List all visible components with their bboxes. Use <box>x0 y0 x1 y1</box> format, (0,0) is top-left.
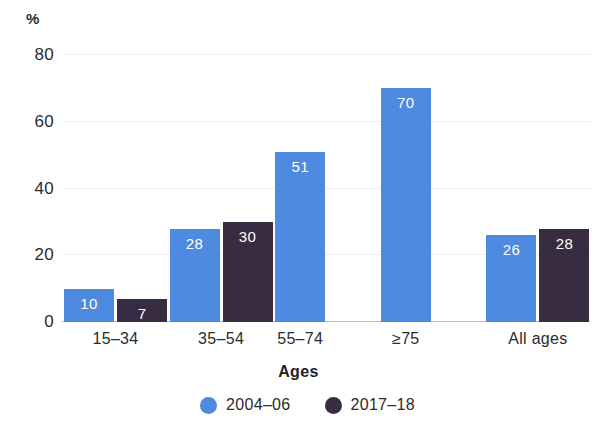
legend-label: 2017–18 <box>351 396 415 414</box>
y-axis-tick-label: 40 <box>10 179 54 199</box>
x-axis-tick-label: All ages <box>508 330 567 348</box>
x-axis-tick-label: ≥75 <box>392 330 419 348</box>
x-axis-tick-label: 15–34 <box>93 330 139 348</box>
bar[interactable]: 28 <box>539 229 589 322</box>
bar-value-label: 26 <box>486 241 536 258</box>
bar[interactable]: 30 <box>223 222 273 322</box>
legend-swatch-icon <box>200 397 217 414</box>
bar-group: 2830 <box>170 55 273 322</box>
bar[interactable]: 7 <box>117 299 167 322</box>
bar-group: 2628 <box>486 55 589 322</box>
legend-item[interactable]: 2004–06 <box>200 396 290 414</box>
y-axis-tick-label: 80 <box>10 45 54 65</box>
x-axis-tick-label: 35–54 <box>198 330 244 348</box>
legend-label: 2004–06 <box>226 396 290 414</box>
bar-value-label: 28 <box>539 235 589 252</box>
y-axis-tick-labels: 020406080 <box>0 55 54 322</box>
bar[interactable]: 51 <box>275 152 325 322</box>
bar[interactable]: 10 <box>64 289 114 322</box>
chart-legend: 2004–062017–18 <box>0 396 597 414</box>
bar-value-label: 7 <box>117 305 167 322</box>
legend-swatch-icon <box>325 397 342 414</box>
y-axis-tick-label: 60 <box>10 112 54 132</box>
bar[interactable]: 28 <box>170 229 220 322</box>
bar-group: 51 <box>275 55 378 322</box>
bar-group: 70 <box>381 55 484 322</box>
bar-chart: % 020406080 107283051702628 15–3435–5455… <box>0 0 597 428</box>
bar-group: 107 <box>64 55 167 322</box>
y-axis-tick-label: 0 <box>10 312 54 332</box>
x-axis-tick-label: 55–74 <box>277 330 323 348</box>
bar[interactable]: 26 <box>486 235 536 322</box>
bar-value-label: 51 <box>275 158 325 175</box>
y-axis-tick-label: 20 <box>10 245 54 265</box>
bar-value-label: 10 <box>64 295 114 312</box>
bar-value-label: 70 <box>381 94 431 111</box>
bar-value-label: 28 <box>170 235 220 252</box>
x-axis-title: Ages <box>0 363 597 381</box>
y-axis-unit-label: % <box>26 10 40 27</box>
x-axis-tick-labels: 15–3435–5455–74≥75All ages <box>62 330 590 356</box>
plot-area: 107283051702628 <box>62 55 590 322</box>
bar-value-label: 30 <box>223 228 273 245</box>
bar[interactable]: 70 <box>381 88 431 322</box>
legend-item[interactable]: 2017–18 <box>325 396 415 414</box>
